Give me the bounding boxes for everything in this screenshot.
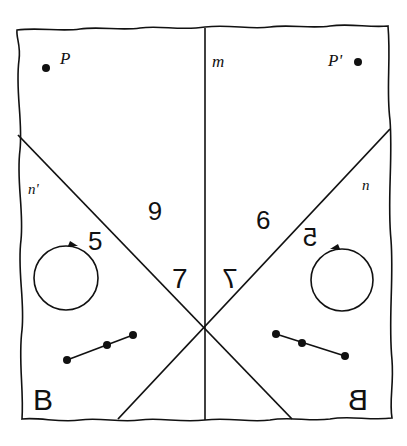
digit-six-right: 6 (256, 205, 270, 235)
letter-b-left: B (33, 383, 53, 416)
reflection-diagram: P P' m n' n 6 5 7 B 6 5 7 B (0, 0, 407, 446)
label-m: m (212, 52, 224, 71)
letter-b-right-mirrored: B (348, 383, 368, 416)
digit-seven-left: 7 (172, 263, 188, 294)
point-p-prime (354, 58, 362, 66)
label-n-prime: n' (28, 181, 40, 197)
digit-five-right-mirrored: 5 (303, 222, 317, 252)
digit-five-left: 5 (88, 226, 102, 256)
point-p (42, 64, 50, 72)
digit-six-left-mirrored: 6 (148, 196, 162, 226)
label-n: n (362, 177, 370, 193)
digit-seven-right-mirrored: 7 (222, 263, 238, 294)
label-p: P (59, 49, 70, 68)
label-p-prime: P' (327, 51, 342, 70)
